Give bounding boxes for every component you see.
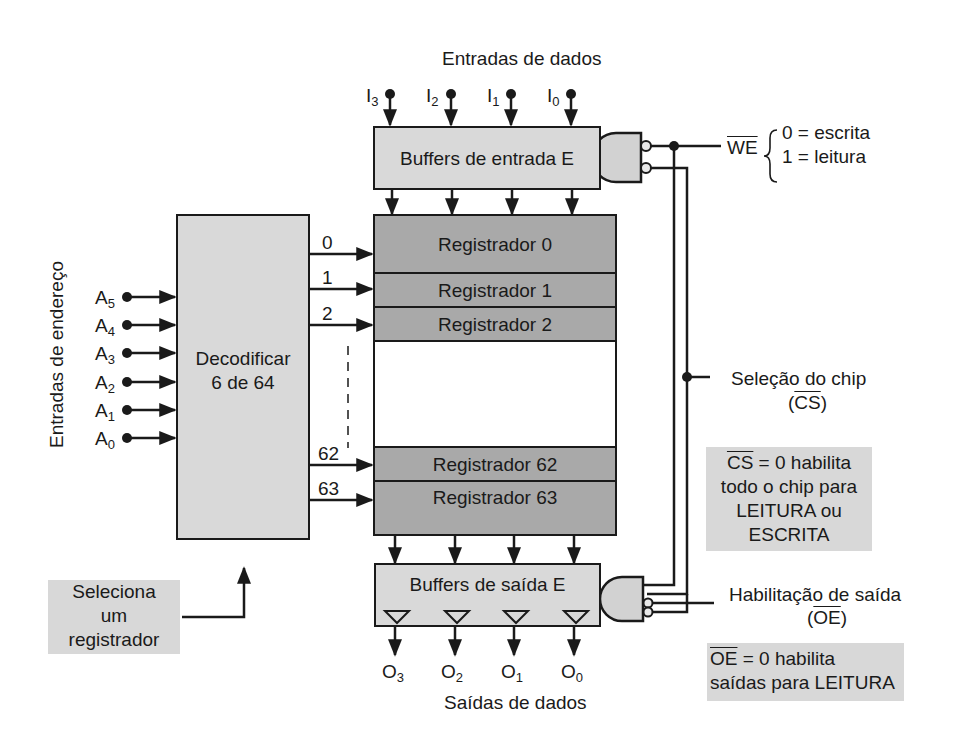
decoder-output-63: 63 bbox=[318, 479, 339, 498]
data-input-pin-i1: I1 bbox=[487, 86, 500, 108]
address-pin-a4: A4 bbox=[95, 316, 115, 338]
output-enable-signal: (OE) bbox=[807, 608, 847, 627]
address-pin-a1: A1 bbox=[95, 401, 115, 423]
chip-select-label: Seleção do chip bbox=[731, 369, 866, 388]
decoder-output-62: 62 bbox=[318, 444, 339, 463]
data-output-pin-o1: O1 bbox=[501, 662, 523, 684]
and-gate-output-icon bbox=[600, 577, 643, 621]
address-pin-a0: A0 bbox=[95, 429, 115, 451]
register-label: Registrador 63 bbox=[433, 488, 558, 507]
oe-note: OE = 0 habilita saídas para LEITURA bbox=[707, 643, 904, 701]
decoder-output-2: 2 bbox=[322, 304, 333, 323]
data-input-pin-i2: I2 bbox=[426, 86, 439, 108]
decoder-block: Decodificar 6 de 64 bbox=[176, 214, 310, 540]
register-row-1: Registrador 1 bbox=[375, 274, 615, 308]
register-row-0: Registrador 0 bbox=[375, 216, 615, 274]
tristate-buffer-icon bbox=[445, 611, 469, 623]
tristate-buffer-icon bbox=[504, 611, 528, 623]
address-pin-a2: A2 bbox=[95, 373, 115, 395]
register-label: Registrador 2 bbox=[438, 315, 552, 334]
tristate-buffer-icon bbox=[385, 611, 409, 623]
register-label: Registrador 0 bbox=[438, 235, 552, 254]
decoder-label-line1: Decodificar bbox=[178, 349, 308, 368]
decoder-label-line2: 6 de 64 bbox=[178, 373, 308, 392]
chip-select-signal: (CS) bbox=[788, 393, 827, 412]
tristate-buffer-icon bbox=[564, 611, 588, 623]
decoder-output-0: 0 bbox=[322, 233, 333, 252]
data-output-pin-o3: O3 bbox=[382, 662, 404, 684]
register-label: Registrador 62 bbox=[433, 455, 558, 474]
data-input-pin-i0: I0 bbox=[547, 86, 560, 108]
register-row-2: Registrador 2 bbox=[375, 308, 615, 342]
address-pin-a3: A3 bbox=[95, 344, 115, 366]
address-inputs-label: Entradas de endereço bbox=[46, 261, 68, 448]
we-signal-label: WE bbox=[727, 138, 758, 157]
we-state-read: 1 = leitura bbox=[782, 147, 866, 166]
data-inputs-label: Entradas de dados bbox=[442, 49, 602, 68]
output-enable-label: Habilitação de saída bbox=[729, 585, 901, 604]
data-outputs-label: Saídas de dados bbox=[444, 693, 587, 712]
input-buffer-block: Buffers de entrada E bbox=[373, 126, 601, 190]
input-buffer-label: Buffers de entrada E bbox=[400, 149, 574, 168]
cs-note: CS = 0 habilita todo o chip para LEITURA… bbox=[706, 447, 872, 551]
register-row-62: Registrador 62 bbox=[375, 446, 615, 482]
data-output-pin-o0: O0 bbox=[561, 662, 583, 684]
register-row-63: Registrador 63 bbox=[375, 482, 615, 534]
register-stack: Registrador 0 Registrador 1 Registrador … bbox=[373, 214, 617, 536]
data-output-pin-o2: O2 bbox=[441, 662, 463, 684]
we-state-write: 0 = escrita bbox=[782, 123, 870, 142]
register-label: Registrador 1 bbox=[438, 281, 552, 300]
output-buffer-block: Buffers de saída E bbox=[374, 563, 601, 627]
address-pin-a5: A5 bbox=[95, 288, 115, 310]
select-register-note: Seleciona um registrador bbox=[48, 580, 180, 654]
decoder-output-1: 1 bbox=[322, 268, 333, 287]
data-input-pin-i3: I3 bbox=[366, 86, 379, 108]
tristate-buffer-icons bbox=[376, 565, 599, 625]
